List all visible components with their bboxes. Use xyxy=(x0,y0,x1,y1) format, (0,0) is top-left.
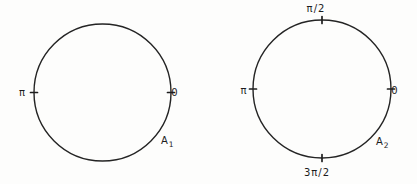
region-label-subscript: 2 xyxy=(384,141,389,150)
circle-outline xyxy=(34,24,171,161)
circle-outline xyxy=(253,20,391,158)
figure-canvas: π0A1π/2π03π/2A2 xyxy=(0,0,417,184)
circle-group-circle-1: π0A1 xyxy=(19,24,179,161)
angle-label: 0 xyxy=(391,85,398,96)
region-label-base: A xyxy=(161,135,168,146)
region-label: A2 xyxy=(376,136,389,150)
region-label: A1 xyxy=(161,135,174,149)
angle-label: 3π/2 xyxy=(304,167,330,178)
region-label-base: A xyxy=(376,136,383,147)
angle-label: π xyxy=(19,87,26,98)
region-label-subscript: 1 xyxy=(169,140,174,149)
angle-label: π xyxy=(240,85,247,96)
figure-svg: π0A1π/2π03π/2A2 xyxy=(0,0,417,184)
angle-label: 0 xyxy=(171,87,178,98)
angle-label: π/2 xyxy=(307,3,326,14)
circle-group-circle-2: π/2π03π/2A2 xyxy=(240,3,398,179)
